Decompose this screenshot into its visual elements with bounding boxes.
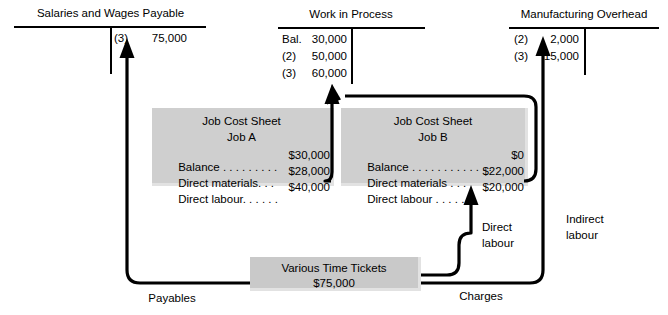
job-sheet-job-name: Job B [341, 131, 525, 143]
t-account-entry-amount: 60,000 [300, 67, 347, 79]
t-account-entry-amount: 50,000 [300, 50, 347, 62]
job-sheet-row: Direct labour. . . . . . $40,000 [159, 181, 278, 229]
t-account-stem [110, 26, 112, 74]
time-tickets-amount: $75,000 [250, 277, 418, 289]
job-sheet-row-amount: $0 [466, 149, 524, 161]
flow-label-payables: Payables [130, 292, 214, 304]
t-account-entry-ref: (3) [114, 32, 128, 44]
t-account-title: Work in Process [272, 9, 430, 21]
various-time-tickets-box: Various Time Tickets $75,000 [250, 257, 421, 291]
job-sheet-row-label: Direct labour [178, 193, 243, 205]
job-sheet-row: Direct labour . . . . . . $20,000 [348, 181, 471, 229]
arrowhead-work-in-process-from-job-b [327, 84, 341, 105]
job-sheet-row-leader: . . . . . . [243, 193, 278, 205]
job-sheet-row-amount: $40,000 [272, 181, 330, 193]
t-account-entry-amount: 2,000 [529, 33, 579, 45]
time-tickets-title: Various Time Tickets [250, 262, 418, 274]
t-account-stem [351, 27, 353, 84]
job-sheet-row-label: Direct labour [367, 193, 432, 205]
flow-label-charges: Charges [443, 290, 519, 302]
t-account-entry-ref: Bal. [282, 33, 302, 45]
t-account-entry-amount: 30,000 [300, 33, 347, 45]
job-cost-sheet-job-b: Job Cost Sheet Job B Balance . . . . . .… [341, 108, 528, 186]
job-sheet-job-name: Job A [152, 131, 331, 143]
diagram-canvas: Salaries and Wages Payable (3) 75,000 Wo… [0, 0, 668, 315]
job-sheet-row-amount: $22,000 [466, 165, 524, 177]
job-sheet-heading: Job Cost Sheet [152, 115, 331, 127]
job-sheet-row-amount: $30,000 [272, 149, 330, 161]
t-account-entry-amount: 75,000 [133, 32, 187, 44]
job-sheet-heading: Job Cost Sheet [341, 115, 525, 127]
t-account-entry-ref: (3) [514, 50, 528, 62]
t-account-entry-ref: (2) [514, 33, 528, 45]
t-account-entry-amount: 15,000 [529, 50, 579, 62]
flow-label-indirect-labour-line1: Indirect [566, 213, 638, 225]
flow-label-indirect-labour-line2: labour [566, 229, 638, 241]
job-cost-sheet-job-a: Job Cost Sheet Job A Balance . . . . . .… [152, 108, 334, 186]
t-account-title: Salaries and Wages Payable [8, 8, 213, 20]
t-account-entry-ref: (2) [282, 50, 296, 62]
t-account-entry-ref: (3) [282, 67, 296, 79]
job-sheet-row-amount: $20,000 [466, 181, 524, 193]
t-account-title: Manufacturing Overhead [504, 9, 664, 21]
t-account-stem [584, 27, 586, 75]
job-sheet-row-leader: . . . . . . [432, 193, 470, 205]
flow-label-direct-labour-line1: Direct [482, 221, 542, 233]
job-sheet-row-amount: $28,000 [272, 165, 330, 177]
arrowhead-work-in-process-from-job-a [325, 84, 340, 104]
flow-label-direct-labour-line2: labour [482, 237, 542, 249]
